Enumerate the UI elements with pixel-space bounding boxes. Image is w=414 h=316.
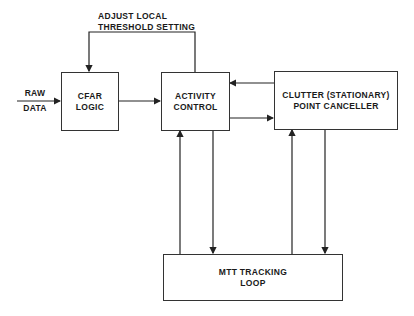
raw-data-label-line2: DATA [20, 103, 50, 114]
clutter-canceller-block: CLUTTER (STATIONARY) POINT CANCELLER [274, 71, 398, 130]
feedback-label-line1: ADJUST LOCAL [98, 11, 195, 22]
activity-label-line2: CONTROL [173, 102, 217, 113]
clutter-label-line1: CLUTTER (STATIONARY) [282, 90, 389, 101]
cfar-label-line2: LOGIC [76, 102, 104, 113]
cfar-logic-block: CFAR LOGIC [61, 72, 119, 131]
raw-data-label-line1: RAW [20, 88, 50, 99]
clutter-label-line2: POINT CANCELLER [293, 101, 378, 112]
activity-label-line1: ACTIVITY [175, 91, 216, 102]
feedback-label-line2: THRESHOLD SETTING [98, 22, 195, 33]
raw-data-label: RAW DATA [20, 88, 50, 114]
activity-control-block: ACTIVITY CONTROL [161, 72, 230, 131]
mtt-label-line1: MTT TRACKING [219, 267, 287, 278]
mtt-label-line2: LOOP [240, 278, 265, 289]
feedback-label: ADJUST LOCAL THRESHOLD SETTING [98, 11, 195, 33]
threshold-feedback-arrow [89, 32, 195, 72]
cfar-label-line1: CFAR [78, 91, 102, 102]
mtt-tracking-loop-block: MTT TRACKING LOOP [163, 254, 343, 301]
